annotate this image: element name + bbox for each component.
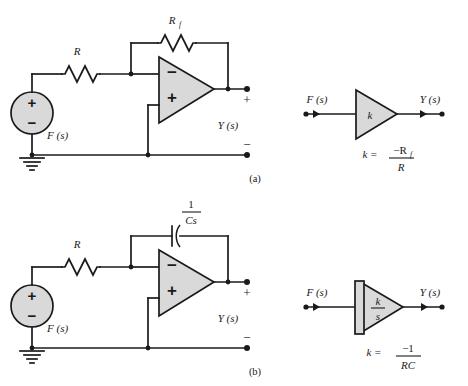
source-minus-sign-b: − (28, 307, 37, 324)
opamp-noninverting-sign-b: + (167, 281, 177, 300)
output-terminal-minus-b (244, 345, 250, 351)
source-label-b: F (s) (46, 322, 68, 335)
feedback-resistor-subscript-a: f (179, 20, 182, 29)
source-minus-sign-a: − (28, 114, 37, 131)
output-terminal-minus-a (244, 152, 250, 158)
block-gain-denominator-b: s (376, 310, 380, 322)
block-input-label-b: F (s) (305, 286, 327, 299)
noninv-ground-node-dot-b (146, 346, 151, 351)
output-plus-sign-b: + (243, 285, 250, 300)
block-output-arrow-b (421, 303, 428, 311)
block-output-terminal-b (439, 304, 444, 309)
equation-numerator-a: −R (393, 144, 407, 156)
block-input-arrow-a (313, 110, 320, 118)
block-equation-a: k = −R f R (362, 144, 414, 173)
integrator-bar-b (355, 281, 364, 334)
ground-node-dot-b (30, 346, 35, 351)
opamp-noninverting-sign-a: + (167, 88, 177, 107)
opamp-inverting-sign-a: − (167, 63, 177, 82)
output-minus-sign-b: − (243, 330, 250, 345)
panel-tag-a: (a) (249, 173, 261, 185)
feedback-capacitor-b (172, 225, 180, 247)
voltage-source-a: + − (11, 92, 53, 134)
panel-b-inverting-integrator: + − F (s) R 1 (0, 193, 468, 386)
block-output-arrow-a (420, 110, 427, 118)
output-minus-sign-a: − (243, 137, 250, 152)
panel-tag-b: (b) (249, 366, 262, 378)
block-diagram-b: F (s) k s Y (s) k = −1 RC (303, 281, 444, 371)
feedback-resistor-label-a: R (168, 14, 176, 26)
block-equation-b: k = −1 RC (366, 342, 421, 371)
block-input-arrow-b (313, 303, 320, 311)
block-output-label-b: Y (s) (420, 286, 441, 299)
equation-denominator-b: RC (400, 359, 416, 371)
equation-lhs-b: k = (366, 346, 381, 358)
panel-a-inverting-amplifier: + − F (s) R R f (0, 0, 468, 193)
source-label-a: F (s) (46, 129, 68, 142)
ground-node-dot-a (30, 153, 35, 158)
ground-symbol-a (20, 134, 44, 170)
opamp-a: − + (159, 57, 214, 123)
input-resistor-a (62, 66, 131, 82)
feedback-resistor-a (158, 35, 228, 51)
input-resistor-label-b: R (73, 238, 81, 250)
capacitor-denominator-b: Cs (185, 214, 197, 226)
output-plus-sign-a: + (243, 92, 250, 107)
voltage-source-b: + − (11, 285, 53, 327)
source-plus-sign-a: + (28, 94, 37, 111)
output-label-b: Y (s) (218, 312, 239, 325)
noninv-ground-node-dot-a (146, 153, 151, 158)
output-node-dot-b (226, 280, 231, 285)
block-output-terminal-a (439, 111, 444, 116)
source-plus-sign-b: + (28, 287, 37, 304)
output-node-dot-a (226, 87, 231, 92)
input-resistor-b (62, 259, 131, 275)
output-label-a: Y (s) (218, 119, 239, 132)
equation-denominator-a: R (397, 161, 405, 173)
input-resistor-label-a: R (73, 45, 81, 57)
block-diagram-a: F (s) k Y (s) k = −R f R (303, 90, 444, 173)
equation-lhs-a: k = (362, 148, 377, 160)
feedback-capacitor-label-b: 1 Cs (182, 198, 201, 226)
figure-container: + − F (s) R R f (0, 0, 468, 386)
block-input-label-a: F (s) (305, 93, 327, 106)
ground-symbol-b (20, 327, 44, 363)
equation-numerator-b: −1 (402, 342, 414, 354)
opamp-b: − + (159, 250, 214, 316)
block-output-label-a: Y (s) (420, 93, 441, 106)
capacitor-numerator-b: 1 (188, 198, 194, 210)
block-triangle-a (356, 90, 397, 139)
opamp-inverting-sign-b: − (167, 256, 177, 275)
